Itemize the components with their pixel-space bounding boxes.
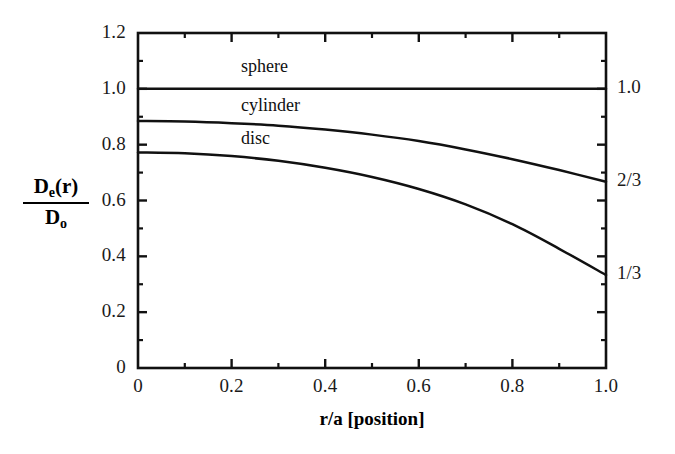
y-tick-label-0_4: 0.4 xyxy=(74,244,126,266)
plot-frame xyxy=(138,33,606,368)
y-tick-label-1_2: 1.2 xyxy=(74,21,126,43)
curve-label-sphere: sphere xyxy=(241,56,288,77)
curve-disc xyxy=(138,152,606,275)
right-axis-label-1_0: 1.0 xyxy=(617,76,641,98)
curve-label-disc: disc xyxy=(241,128,270,149)
right-axis-label-1-3: 1/3 xyxy=(617,262,641,284)
curve-cylinder xyxy=(138,121,606,182)
y-tick-label-0_6: 0.6 xyxy=(74,189,126,211)
x-tick-label-0_6: 0.6 xyxy=(389,375,449,397)
x-tick-label-0_2: 0.2 xyxy=(202,375,262,397)
chart-figure: De(r) Do 00.20.40.60.81.01.200.20.40.60.… xyxy=(0,0,675,454)
x-tick-label-0_8: 0.8 xyxy=(482,375,542,397)
right-axis-label-2-3: 2/3 xyxy=(617,169,641,191)
y-tick-label-0_2: 0.2 xyxy=(74,300,126,322)
axes-frame xyxy=(138,33,606,368)
x-tick-label-1_0: 1.0 xyxy=(576,375,636,397)
y-tick-label-0_8: 0.8 xyxy=(74,133,126,155)
y-tick-label-1_0: 1.0 xyxy=(74,77,126,99)
x-axis-title: r/a [position] xyxy=(138,408,606,430)
axis-ticks xyxy=(138,33,606,368)
data-curves xyxy=(138,89,606,275)
x-tick-label-0: 0 xyxy=(108,375,168,397)
x-tick-label-0_4: 0.4 xyxy=(295,375,355,397)
curve-label-cylinder: cylinder xyxy=(241,95,300,116)
